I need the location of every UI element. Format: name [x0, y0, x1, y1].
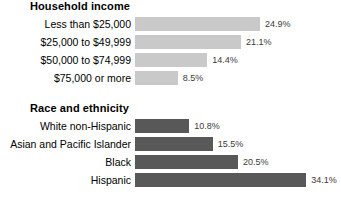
bar-value-label: 20.5% — [243, 156, 269, 168]
bar-value-label: 10.8% — [194, 120, 220, 132]
bar-row: Hispanic34.1% — [0, 172, 341, 190]
bar-category-label: White non-Hispanic — [0, 119, 131, 133]
bar-category-label: Less than $25,000 — [0, 17, 131, 31]
bar-value-label: 15.5% — [218, 138, 244, 150]
bar-category-label: $50,000 to $74,999 — [0, 53, 131, 67]
bar-track: 10.8% — [135, 119, 341, 133]
bar-track: 14.4% — [135, 53, 341, 67]
bar — [135, 35, 241, 49]
bar-rows-household-income: Less than $25,00024.9%$25,000 to $49,999… — [0, 16, 341, 88]
bar-category-label: Black — [0, 155, 131, 169]
bar-value-label: 34.1% — [311, 174, 337, 186]
bar-track: 21.1% — [135, 35, 341, 49]
bar-chart-figure: Household income Less than $25,00024.9%$… — [0, 0, 341, 197]
bar-row: Black20.5% — [0, 154, 341, 172]
bar-track: 24.9% — [135, 17, 341, 31]
bar-track: 8.5% — [135, 71, 341, 85]
bar-track: 20.5% — [135, 155, 341, 169]
bar-row: $50,000 to $74,99914.4% — [0, 52, 341, 70]
bar — [135, 71, 178, 85]
bar — [135, 53, 207, 67]
bar-track: 15.5% — [135, 137, 341, 151]
bar — [135, 119, 189, 133]
bar-category-label: $75,000 or more — [0, 71, 131, 85]
bar — [135, 155, 238, 169]
bar-value-label: 21.1% — [246, 36, 272, 48]
bar-track: 34.1% — [135, 173, 341, 187]
bar — [135, 137, 213, 151]
bar-category-label: Asian and Pacific Islander — [0, 137, 131, 151]
bar-category-label: Hispanic — [0, 173, 131, 187]
panel-title-household-income: Household income — [30, 0, 130, 12]
bar-row: $75,000 or more8.5% — [0, 70, 341, 88]
panel-title-race-ethnicity: Race and ethnicity — [30, 102, 129, 114]
bar — [135, 173, 306, 187]
bar-row: Less than $25,00024.9% — [0, 16, 341, 34]
bar — [135, 17, 260, 31]
bar-value-label: 24.9% — [265, 18, 291, 30]
bar-row: Asian and Pacific Islander15.5% — [0, 136, 341, 154]
bar-row: $25,000 to $49,99921.1% — [0, 34, 341, 52]
bar-value-label: 14.4% — [212, 54, 238, 66]
bar-rows-race-ethnicity: White non-Hispanic10.8%Asian and Pacific… — [0, 118, 341, 190]
bar-row: White non-Hispanic10.8% — [0, 118, 341, 136]
bar-category-label: $25,000 to $49,999 — [0, 35, 131, 49]
bar-value-label: 8.5% — [183, 72, 204, 84]
